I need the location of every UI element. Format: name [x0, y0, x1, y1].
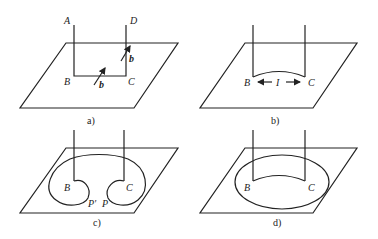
figure: A D B C b b a) B I C b) B C P′ P c) — [0, 0, 378, 239]
label-B: B — [64, 182, 70, 193]
label-b: b — [99, 79, 104, 90]
current-path — [253, 176, 305, 182]
caption-c: c) — [93, 217, 101, 229]
label-b: b — [129, 53, 134, 64]
label-C: C — [126, 182, 133, 193]
label-B: B — [244, 182, 250, 193]
label-P: P — [101, 198, 108, 209]
label-C: C — [308, 77, 315, 88]
caption-a: a) — [87, 115, 95, 127]
label-B: B — [64, 76, 70, 87]
label-P-prime: P′ — [87, 198, 97, 209]
panel-a: A D B C b b a) — [20, 15, 178, 127]
caption-d: d) — [273, 217, 281, 229]
plane — [200, 148, 357, 213]
label-D: D — [129, 15, 138, 26]
label-I: I — [275, 77, 280, 88]
label-B: B — [244, 77, 250, 88]
label-A: A — [63, 15, 71, 26]
plane — [20, 148, 178, 213]
caption-b: b) — [271, 115, 279, 127]
panel-d: B C d) — [200, 130, 357, 229]
panel-b: B I C b) — [200, 25, 357, 127]
label-C: C — [128, 76, 135, 87]
loop-abcd — [74, 25, 126, 76]
deformed-loop — [49, 155, 145, 206]
panel-c: B C P′ P c) — [20, 130, 178, 229]
plane — [200, 43, 357, 108]
label-C: C — [308, 182, 315, 193]
